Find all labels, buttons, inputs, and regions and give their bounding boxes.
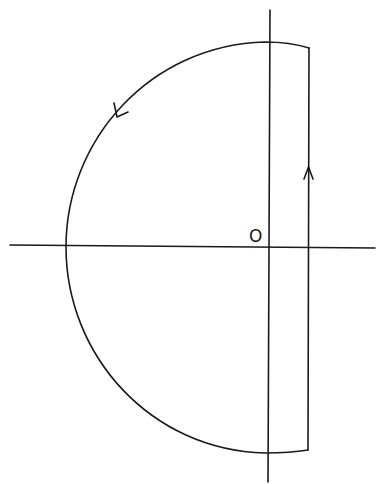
imaginary-axis (268, 10, 270, 482)
vertical-contour-segment (308, 48, 309, 450)
contour-diagram: O (0, 0, 378, 484)
real-axis (10, 245, 375, 248)
arc-direction-arrow-icon (114, 103, 128, 117)
origin-label: O (249, 226, 262, 246)
